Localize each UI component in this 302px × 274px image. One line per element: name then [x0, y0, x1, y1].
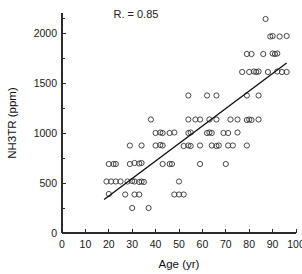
x-tick-label: 50	[173, 238, 185, 250]
x-tick-label: 80	[243, 238, 255, 250]
x-tick-label: 90	[267, 238, 279, 250]
data-point	[204, 93, 209, 98]
data-point	[197, 161, 202, 166]
data-point	[127, 143, 132, 148]
data-point	[146, 205, 151, 210]
data-point	[235, 130, 240, 135]
y-tick-label: 0	[51, 227, 57, 239]
x-tick-label: 60	[197, 238, 209, 250]
data-point	[139, 143, 144, 148]
y-tick-labels: 0500100015002000	[34, 27, 58, 239]
x-tick-label: 30	[126, 238, 138, 250]
x-tick-label: 40	[150, 238, 162, 250]
data-point	[160, 161, 165, 166]
data-points-layer	[104, 16, 289, 210]
regression-line-layer	[104, 63, 287, 200]
data-point	[235, 117, 240, 122]
regression-line	[104, 63, 287, 200]
data-point	[186, 93, 191, 98]
x-tick-label: 20	[103, 238, 115, 250]
data-point	[261, 51, 266, 56]
correlation-annotation: R. = 0.85	[113, 8, 158, 20]
y-tick-label: 1000	[34, 127, 58, 139]
data-point	[277, 34, 282, 39]
axes-layer	[62, 13, 296, 233]
y-tick-label: 1500	[34, 77, 58, 89]
data-point	[223, 161, 228, 166]
data-point	[256, 117, 261, 122]
x-tick-label: 10	[80, 238, 92, 250]
data-point	[148, 117, 153, 122]
data-point	[265, 69, 270, 74]
x-tick-label: 100	[287, 238, 302, 250]
data-point	[197, 143, 202, 148]
data-point	[176, 179, 181, 184]
y-tick-label: 2000	[34, 27, 58, 39]
y-axis-title: NH3TR (ppm)	[6, 87, 18, 159]
x-tick-labels: 0102030405060708090100	[59, 238, 302, 250]
data-point	[240, 69, 245, 74]
y-tick-label: 500	[39, 177, 57, 189]
data-point	[214, 93, 219, 98]
data-point	[263, 16, 268, 21]
data-point	[284, 33, 289, 38]
data-point	[244, 143, 249, 148]
data-point	[123, 192, 128, 197]
scatter-chart: 0102030405060708090100 0500100015002000 …	[0, 0, 302, 274]
data-point	[228, 117, 233, 122]
x-axis-title: Age (yr)	[159, 258, 200, 270]
data-point	[186, 117, 191, 122]
plot-area: 0102030405060708090100 0500100015002000 …	[0, 0, 302, 274]
data-point	[130, 205, 135, 210]
x-tick-label: 0	[59, 238, 65, 250]
x-tick-label: 70	[220, 238, 232, 250]
data-point	[256, 93, 261, 98]
annotations-layer: R. = 0.85	[113, 8, 158, 20]
